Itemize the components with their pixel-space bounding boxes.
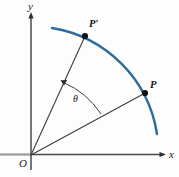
point-marker-p <box>142 90 148 96</box>
ray-to-p <box>31 92 147 155</box>
theta-arc-arrowhead <box>61 80 68 86</box>
point-label-p: P <box>150 79 157 90</box>
y-axis-label: y <box>27 0 33 12</box>
figure-canvas: y x O P′ P θ <box>0 0 179 177</box>
y-axis-arrowhead <box>28 12 33 19</box>
theta-label: θ <box>73 93 78 104</box>
x-axis-arrowhead <box>160 152 167 157</box>
point-marker-p-prime <box>82 33 88 39</box>
origin-label: O <box>19 157 27 169</box>
x-axis-label: x <box>168 148 174 160</box>
theta-angle-arc <box>64 83 102 115</box>
blue-arc <box>52 28 157 134</box>
point-label-p-prime: P′ <box>89 18 98 29</box>
geometry-figure: y x O P′ P θ <box>0 0 179 177</box>
